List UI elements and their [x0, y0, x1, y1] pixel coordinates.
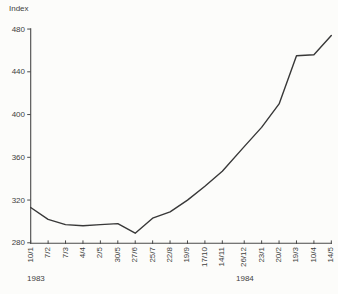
x-tick-label: 22/8: [165, 247, 174, 263]
y-tick-label: 360: [5, 153, 25, 162]
x-tick-label: 30/5: [113, 247, 122, 263]
y-tick-label: 440: [5, 67, 25, 76]
year-label-1984: 1984: [236, 274, 254, 283]
index-series-line: [31, 36, 332, 234]
x-tick-label: 10/4: [309, 247, 318, 263]
x-tick-label: 19/9: [182, 247, 191, 263]
x-tick-label: 7/2: [43, 247, 52, 258]
y-tick-label: 320: [5, 196, 25, 205]
y-tick-label: 480: [5, 25, 25, 34]
y-tick-label: 280: [5, 238, 25, 247]
x-tick-label: 10/1: [26, 247, 35, 263]
y-tick-label: 400: [5, 110, 25, 119]
axes: [31, 28, 332, 243]
x-tick-label: 17/10: [200, 247, 209, 267]
x-tick-label: 2/5: [95, 247, 104, 258]
x-tick-label: 14/5: [326, 247, 335, 263]
x-tick-label: 14/11: [217, 247, 226, 266]
x-tick-label: 27/6: [130, 247, 139, 263]
x-tick-label: 23/1: [257, 247, 266, 263]
x-tick-label: 20/2: [274, 247, 283, 263]
x-tick-label: 19/3: [291, 247, 300, 263]
x-tick-label: 26/12: [239, 247, 248, 267]
chart-title: Index: [9, 4, 29, 13]
x-tick-label: 4/4: [78, 247, 87, 258]
index-line-chart: Index 28032036040044048010/17/27/34/42/5…: [0, 0, 338, 294]
x-tick-label: 25/7: [148, 247, 157, 263]
x-tick-label: 7/3: [61, 247, 70, 258]
year-label-1983: 1983: [27, 274, 45, 283]
